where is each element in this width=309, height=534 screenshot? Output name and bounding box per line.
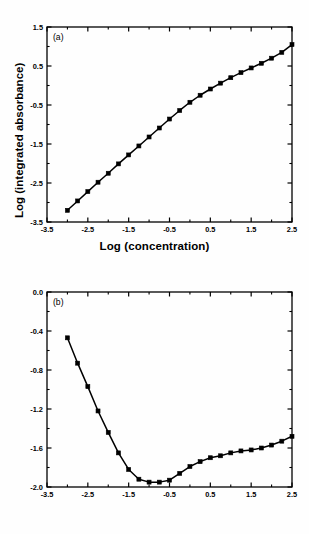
data-point-marker xyxy=(65,208,69,212)
data-point-marker xyxy=(290,43,294,47)
data-point-marker xyxy=(229,76,233,80)
data-point-marker xyxy=(270,56,274,60)
plot-frame xyxy=(47,292,292,487)
data-point-marker xyxy=(116,451,120,455)
data-series-line xyxy=(67,45,292,211)
data-point-marker xyxy=(86,385,90,389)
data-point-marker xyxy=(290,434,294,438)
x-tick-label: -2.5 xyxy=(81,490,94,499)
y-tick-label: -1.5 xyxy=(30,140,43,149)
data-point-marker xyxy=(127,153,131,157)
data-point-marker xyxy=(280,439,284,443)
chart-panel-b: -3.5-2.5-1.5-0.50.51.52.5-2.0-1.6-1.2-0.… xyxy=(0,267,309,534)
data-point-marker xyxy=(208,456,212,460)
y-tick-label: 1.5 xyxy=(33,23,43,32)
data-point-marker xyxy=(239,449,243,453)
data-point-marker xyxy=(178,471,182,475)
y-tick-label: -0.5 xyxy=(30,101,43,110)
data-point-marker xyxy=(198,460,202,464)
x-tick-label: -1.5 xyxy=(122,225,135,234)
y-tick-label: -0.8 xyxy=(30,366,43,375)
data-point-marker xyxy=(280,50,284,54)
y-tick-label: -1.2 xyxy=(30,405,43,414)
data-point-marker xyxy=(219,454,223,458)
data-point-marker xyxy=(137,144,141,148)
y-tick-label: -1.6 xyxy=(30,444,43,453)
data-point-marker xyxy=(116,162,120,166)
data-point-marker xyxy=(106,171,110,175)
x-tick-label: -1.5 xyxy=(122,490,135,499)
data-point-marker xyxy=(96,409,100,413)
data-point-marker xyxy=(96,180,100,184)
data-point-marker xyxy=(86,190,90,194)
x-tick-label: 1.5 xyxy=(246,225,256,234)
x-tick-label: 2.5 xyxy=(287,490,297,499)
data-point-marker xyxy=(76,199,80,203)
data-point-marker xyxy=(249,66,253,70)
data-point-marker xyxy=(168,478,172,482)
y-tick-label: -2.5 xyxy=(30,179,43,188)
panel-tag-label: (a) xyxy=(53,32,64,42)
data-point-marker xyxy=(106,430,110,434)
data-point-marker xyxy=(229,451,233,455)
y-tick-label: 0.5 xyxy=(33,62,43,71)
data-point-marker xyxy=(127,467,131,471)
data-point-marker xyxy=(249,448,253,452)
data-point-marker xyxy=(157,480,161,484)
data-point-marker xyxy=(137,477,141,481)
x-axis-title-a: Log (concentration) xyxy=(0,240,309,252)
data-point-marker xyxy=(76,361,80,365)
x-tick-label: -2.5 xyxy=(81,225,94,234)
data-point-marker xyxy=(147,135,151,139)
plot-b-canvas: -3.5-2.5-1.5-0.50.51.52.5-2.0-1.6-1.2-0.… xyxy=(0,267,309,534)
data-point-marker xyxy=(270,443,274,447)
chart-panel-a: -3.5-2.5-1.5-0.50.51.52.5-3.5-2.5-1.5-0.… xyxy=(0,0,309,267)
x-tick-label: -0.5 xyxy=(163,490,176,499)
data-point-marker xyxy=(157,126,161,130)
data-point-marker xyxy=(168,117,172,121)
data-point-marker xyxy=(198,93,202,97)
panel-tag-label: (b) xyxy=(53,297,64,307)
data-point-marker xyxy=(239,71,243,75)
x-tick-label: 0.5 xyxy=(205,490,215,499)
y-tick-label: -0.4 xyxy=(30,327,44,336)
plot-frame xyxy=(47,27,292,222)
x-tick-label: 1.5 xyxy=(246,490,256,499)
data-point-marker xyxy=(65,336,69,340)
y-tick-label: -2.0 xyxy=(30,483,43,492)
plot-a-canvas: -3.5-2.5-1.5-0.50.51.52.5-3.5-2.5-1.5-0.… xyxy=(0,0,309,267)
data-point-marker xyxy=(259,61,263,65)
y-tick-label: 0.0 xyxy=(33,288,43,297)
y-axis-title-a: Log (integrated absorbance) xyxy=(13,63,25,218)
data-point-marker xyxy=(188,100,192,104)
data-point-marker xyxy=(219,81,223,85)
data-point-marker xyxy=(178,108,182,112)
data-point-marker xyxy=(147,480,151,484)
x-tick-label: 0.5 xyxy=(205,225,215,234)
figure-container: -3.5-2.5-1.5-0.50.51.52.5-3.5-2.5-1.5-0.… xyxy=(0,0,309,534)
x-tick-label: -0.5 xyxy=(163,225,176,234)
data-series-line xyxy=(67,338,292,482)
data-point-marker xyxy=(259,446,263,450)
y-tick-label: -3.5 xyxy=(30,218,43,227)
x-tick-label: 2.5 xyxy=(287,225,297,234)
data-point-marker xyxy=(208,87,212,91)
data-point-marker xyxy=(188,465,192,469)
